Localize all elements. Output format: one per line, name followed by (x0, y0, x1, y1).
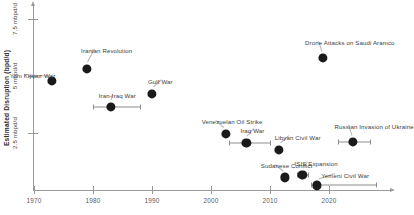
data-point-libyan-civil-war[interactable] (274, 146, 283, 155)
data-label-iraq-war: Iraq War (240, 127, 264, 134)
data-point-iranian-revolution[interactable] (83, 65, 92, 74)
x-tick-2020 (329, 186, 330, 194)
data-label-venezuelan-oil-strike: Venezuelan Oil Strike (202, 118, 263, 125)
x-tick-label: 1990 (144, 197, 159, 204)
x-tick-label: 1970 (26, 197, 41, 204)
data-point-gulf-war[interactable] (147, 90, 156, 99)
error-cap-iran-iraq-war-high (140, 104, 141, 109)
data-point-sudanese-conflict[interactable] (280, 173, 289, 182)
data-point-iran-iraq-war[interactable] (106, 102, 115, 111)
y-tick-2-5 (28, 133, 38, 134)
error-cap-russian-invasion-of-ukraine-low (338, 140, 339, 145)
error-cap-russian-invasion-of-ukraine-high (370, 140, 371, 145)
y-tick-label: 7.5 mbpd/d (11, 3, 18, 35)
data-point-venezuelan-oil-strike[interactable] (221, 130, 230, 139)
y-tick-label: 2.5 mbpd/d (11, 117, 18, 149)
error-cap-iraq-war-low (229, 141, 230, 146)
error-cap-iran-iraq-war-low (93, 104, 94, 109)
data-point-russian-invasion-of-ukraine[interactable] (348, 138, 357, 147)
x-tick-2010 (270, 186, 271, 194)
data-label-drone-attacks-on-saudi-aramco: Drone Attacks on Saudi Aramco (305, 39, 395, 46)
data-point-isis-expansion[interactable] (298, 171, 307, 180)
error-cap-yemeni-civil-war-high (376, 183, 377, 188)
error-cap-iraq-war-high (270, 141, 271, 146)
x-tick-label: 2010 (262, 197, 277, 204)
y-tick-7-5 (28, 19, 38, 20)
data-label-yom-kippur-war: Yom Kippur War (10, 72, 56, 79)
x-tick-label: 2020 (321, 197, 336, 204)
data-point-yemeni-civil-war[interactable] (313, 181, 322, 190)
data-label-gulf-war: Gulf War (148, 78, 173, 85)
data-label-russian-invasion-of-ukraine: Russian Invasion of Ukraine (335, 123, 414, 130)
error-cap-isis-expansion-high (308, 173, 309, 178)
x-axis-arrow-icon (390, 188, 395, 192)
data-label-libyan-civil-war: Libyan Civil War (275, 134, 321, 141)
error-bar-iran-iraq-war (93, 106, 140, 107)
y-axis-arrow-icon (31, 1, 35, 6)
x-axis-line (33, 190, 392, 191)
data-label-isis-expansion: ISIS Expansion (294, 160, 337, 167)
x-tick-2000 (211, 186, 212, 194)
data-label-iran-iraq-war: Iran-Iraq War (99, 92, 136, 99)
data-label-yemeni-civil-war: Yemeni Civil War (321, 172, 369, 179)
data-label-iranian-revolution: Iranian Revolution (81, 47, 132, 54)
y-axis-title: Estimated Disruption (bpd/d) (3, 50, 10, 146)
x-tick-label: 2000 (203, 197, 218, 204)
x-tick-1980 (93, 186, 94, 194)
x-tick-1970 (34, 186, 35, 194)
x-tick-label: 1980 (85, 197, 100, 204)
x-tick-1990 (152, 186, 153, 194)
y-axis-line (33, 6, 34, 191)
data-point-drone-attacks-on-saudi-aramco[interactable] (319, 53, 328, 62)
data-point-iraq-war[interactable] (242, 139, 251, 148)
